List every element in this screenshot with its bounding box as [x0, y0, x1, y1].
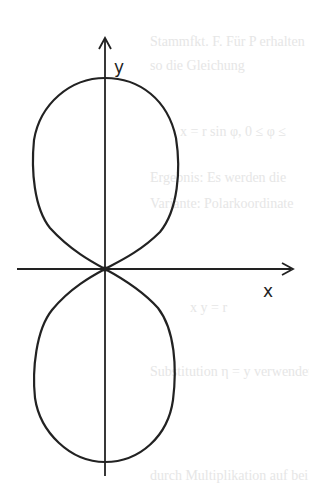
origin-point [101, 267, 109, 272]
lemniscate-diagram: y x [0, 0, 309, 498]
y-axis-label: y [114, 57, 124, 77]
x-axis-label: x [263, 281, 273, 301]
